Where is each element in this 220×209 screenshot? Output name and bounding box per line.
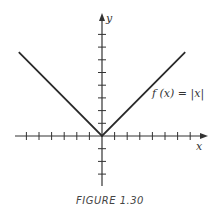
y-axis-label: y — [105, 12, 113, 25]
axis-ticks — [26, 34, 190, 174]
x-axis-arrow-icon — [200, 133, 208, 139]
x-axis-label: x — [196, 140, 203, 153]
figure-caption: FIGURE 1.30 — [76, 195, 144, 206]
plot-canvas: y x f (x) = |x| FIGURE 1.30 — [0, 0, 220, 209]
function-label: f (x) = |x| — [151, 87, 204, 101]
absolute-value-figure: y x f (x) = |x| FIGURE 1.30 — [0, 0, 220, 209]
y-axis-arrow-icon — [99, 13, 105, 21]
